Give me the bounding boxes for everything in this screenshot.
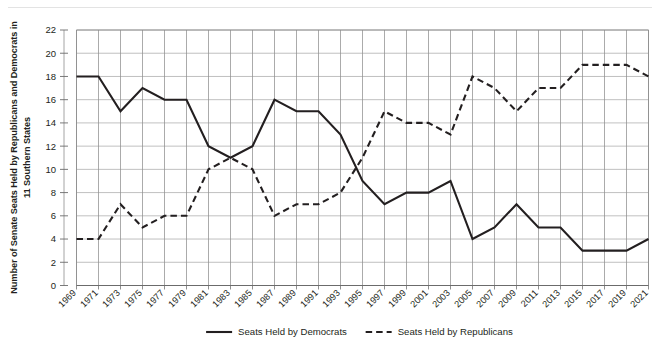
- x-axis-tick-label: 1987: [254, 288, 276, 310]
- y-axis-tick-label: 18: [45, 71, 56, 82]
- x-axis-tick-label: 1989: [276, 288, 298, 310]
- x-axis-tick-label: 2019: [606, 288, 628, 310]
- x-axis-tick-label: 1981: [188, 288, 210, 310]
- x-axis-tick-label: 2001: [408, 288, 430, 310]
- x-axis-tick-label: 1985: [232, 288, 254, 310]
- x-axis-tick-label: 2011: [519, 288, 540, 309]
- x-axis-tick-label: 1991: [298, 288, 320, 310]
- x-axis-tick-label: 1983: [210, 288, 232, 310]
- y-axis-tick-label: 2: [51, 257, 56, 268]
- y-axis-tick-labels: 0246810121416182022: [45, 24, 56, 291]
- x-axis-tick-label: 2013: [540, 288, 562, 310]
- y-axis-tick-label: 12: [45, 141, 56, 152]
- x-axis-tick-label: 1975: [122, 288, 144, 310]
- x-axis-tick-label: 1995: [342, 288, 364, 310]
- y-axis-tick-label: 22: [45, 24, 56, 35]
- y-axis-tick-label: 10: [45, 164, 56, 175]
- x-axis-tick-label: 1969: [56, 288, 78, 310]
- legend-label-1: Seats Held by Democrats: [238, 326, 347, 337]
- x-axis-tick-labels: 1969197119731975197719791981198319851987…: [56, 288, 650, 310]
- legend-label-2: Seats Held by Republicans: [398, 326, 513, 337]
- y-axis-tick-label: 8: [51, 187, 56, 198]
- chart-legend: Seats Held by DemocratsSeats Held by Rep…: [206, 326, 513, 337]
- grid-lines: [77, 30, 649, 286]
- x-axis-tick-label: 1993: [320, 288, 342, 310]
- x-axis-tick-label: 1997: [364, 288, 386, 310]
- x-axis-tick-label: 2009: [496, 288, 518, 310]
- y-axis-tick-label: 6: [51, 210, 56, 221]
- x-axis-tick-label: 1971: [78, 288, 100, 310]
- x-axis-tick-label: 2007: [474, 288, 496, 310]
- x-axis-tick-label: 1979: [166, 288, 188, 310]
- x-axis-tick-label: 1973: [100, 288, 122, 310]
- y-axis-tick-label: 0: [51, 280, 56, 291]
- x-axis-tick-label: 2015: [562, 288, 584, 310]
- y-axis-tick-label: 4: [51, 233, 56, 244]
- x-axis-tick-label: 2005: [452, 288, 474, 310]
- y-axis-tick-label: 16: [45, 94, 56, 105]
- x-axis-tick-label: 2003: [430, 288, 452, 310]
- y-axis-tick-label: 20: [45, 48, 56, 59]
- chart-figure: Number of Senate Seats Held by Republica…: [0, 0, 660, 358]
- x-axis-tick-label: 2021: [628, 288, 650, 310]
- line-chart-plot: 0246810121416182022 19691971197319751977…: [0, 0, 660, 358]
- x-axis-tick-label: 1999: [386, 288, 408, 310]
- x-axis-tick-label: 1977: [144, 288, 166, 310]
- x-axis-tick-label: 2017: [584, 288, 606, 310]
- y-axis-tick-label: 14: [45, 117, 56, 128]
